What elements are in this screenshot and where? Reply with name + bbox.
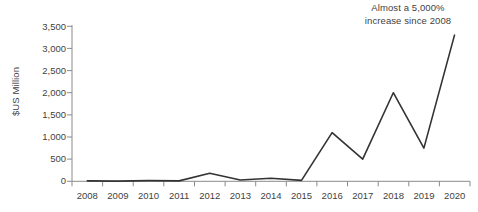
x-tick-label: 2015: [291, 190, 312, 201]
x-tick-label: 2013: [230, 190, 251, 201]
x-tick-label: 2017: [352, 190, 373, 201]
x-tick-label: 2010: [138, 190, 159, 201]
x-tick-label: 2016: [322, 190, 343, 201]
x-tick-label: 2012: [199, 190, 220, 201]
x-tick-label: 2019: [414, 190, 435, 201]
x-tick-label: 2009: [107, 190, 128, 201]
x-tick-label: 2014: [260, 190, 281, 201]
x-axis-tick-labels: 2008 2009 2010 2011 2012 2013 2014 2015 …: [0, 0, 478, 212]
x-tick-label: 2020: [444, 190, 465, 201]
x-tick-label: 2018: [383, 190, 404, 201]
x-tick-label: 2008: [77, 190, 98, 201]
x-tick-label: 2011: [169, 190, 189, 201]
line-chart: Almost a 5,000% increase since 2008 $US …: [0, 0, 478, 212]
